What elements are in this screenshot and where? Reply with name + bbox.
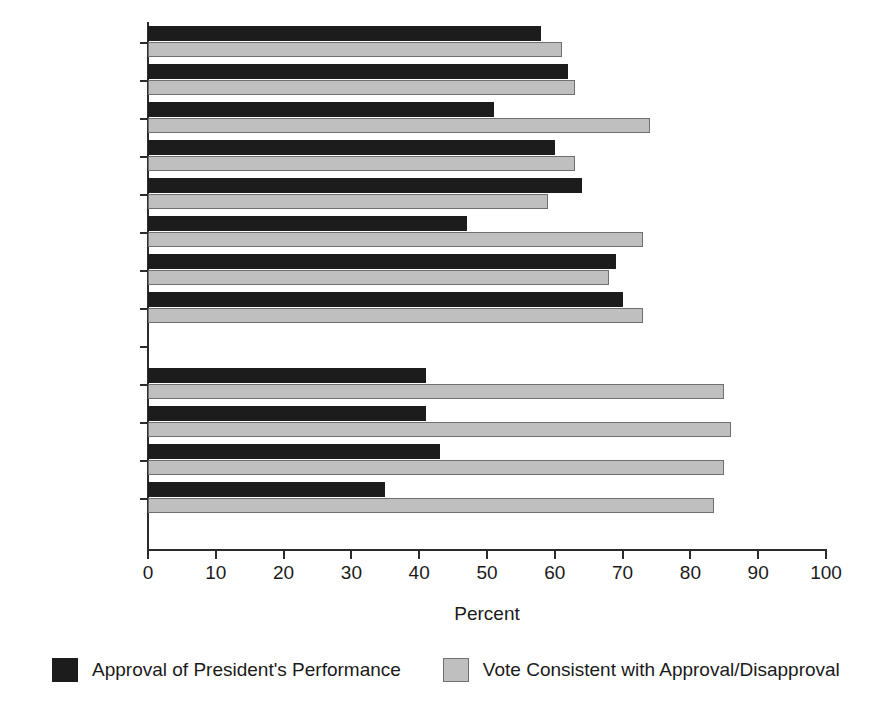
y-axis-tick [140, 460, 148, 462]
y-axis-tick [140, 384, 148, 386]
x-axis-tick-label: 10 [205, 562, 226, 584]
legend-label: Vote Consistent with Approval/Disapprova… [483, 659, 840, 681]
bar-approval [148, 26, 541, 41]
bar-approval [148, 216, 467, 231]
plot-area: 1974 NES1978 NES1982 NES1986 NES1990 NES… [148, 22, 826, 550]
legend-label: Approval of President's Performance [92, 659, 401, 681]
bar-consistency [148, 308, 643, 323]
x-axis-tick-label: 60 [544, 562, 565, 584]
x-axis-tick [825, 551, 827, 559]
bar-approval [148, 254, 616, 269]
bar-consistency [148, 270, 609, 285]
x-axis-tick [689, 551, 691, 559]
bar-approval [148, 482, 385, 497]
y-axis-tick [140, 498, 148, 500]
bar-consistency [148, 232, 643, 247]
bar-approval [148, 406, 426, 421]
x-axis-title: Percent [148, 603, 826, 625]
x-axis-tick-label: 50 [476, 562, 497, 584]
category-group: 1986 NES [148, 140, 826, 178]
y-axis-tick [140, 156, 148, 158]
bar-approval [148, 64, 568, 79]
category-group: 2006 CCES [148, 368, 826, 406]
legend-item: Vote Consistent with Approval/Disapprova… [443, 658, 840, 682]
bar-consistency [148, 194, 548, 209]
y-axis-tick [140, 80, 148, 82]
x-axis-tick-label: 40 [409, 562, 430, 584]
x-axis-tick [350, 551, 352, 559]
x-axis-tick-label: 90 [748, 562, 769, 584]
y-axis-tick [140, 422, 148, 424]
x-axis-tick [554, 551, 556, 559]
bar-consistency [148, 498, 714, 513]
bar-approval [148, 178, 582, 193]
legend-swatch [52, 658, 78, 682]
bar-approval [148, 292, 623, 307]
bar-consistency [148, 384, 724, 399]
y-axis-tick [140, 194, 148, 196]
x-axis-tick-label: 100 [810, 562, 842, 584]
legend-item: Approval of President's Performance [52, 658, 401, 682]
bar-consistency [148, 156, 575, 171]
bar-approval [148, 140, 555, 155]
x-axis-tick-label: 0 [143, 562, 154, 584]
bar-consistency [148, 118, 650, 133]
bar-consistency [148, 422, 731, 437]
x-axis-tick [215, 551, 217, 559]
y-axis-tick [140, 308, 148, 310]
category-group: 1978 NES [148, 64, 826, 102]
bar-chart: 1974 NES1978 NES1982 NES1986 NES1990 NES… [0, 0, 872, 708]
x-axis-tick [418, 551, 420, 559]
x-axis-tick [757, 551, 759, 559]
x-axis-tick-label: 20 [273, 562, 294, 584]
bar-consistency [148, 80, 575, 95]
x-axis-tick [147, 551, 149, 559]
category-group: 1990 NES [148, 178, 826, 216]
bar-approval [148, 102, 494, 117]
y-axis-tick [140, 232, 148, 234]
category-group: 1974 NES [148, 26, 826, 64]
y-axis-tick [140, 118, 148, 120]
category-group: 1998 NES [148, 254, 826, 292]
bar-approval [148, 368, 426, 383]
x-axis-tick-label: 80 [680, 562, 701, 584]
x-axis-tick-label: 30 [341, 562, 362, 584]
y-axis-tick [140, 346, 148, 348]
y-axis-tick [140, 270, 148, 272]
x-axis-tick-label: 70 [612, 562, 633, 584]
chart-legend: Approval of President's PerformanceVote … [52, 658, 840, 682]
category-group: 1982 NES [148, 102, 826, 140]
category-group: 2002 NES [148, 292, 826, 330]
category-group: NES Pilot [148, 482, 826, 520]
x-axis-tick [283, 551, 285, 559]
y-axis-tick [140, 42, 148, 44]
bar-approval [148, 444, 440, 459]
legend-swatch [443, 658, 469, 682]
bar-consistency [148, 460, 724, 475]
x-axis-tick [486, 551, 488, 559]
bar-consistency [148, 42, 562, 57]
category-gap [148, 330, 826, 368]
category-group: 1994 NES [148, 216, 826, 254]
category-group: CES [148, 406, 826, 444]
x-axis-tick [622, 551, 624, 559]
category-group: Exit Poll [148, 444, 826, 482]
